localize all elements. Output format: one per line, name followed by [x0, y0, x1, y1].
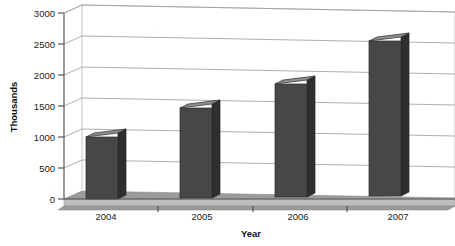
x-tick-label-2006: 2006: [287, 211, 308, 222]
x-axis-title: Year: [241, 228, 261, 239]
chart-canvas: 3000 2500 2000 1500 1000 500 0 2004 2005…: [0, 0, 455, 246]
y-axis-title: Thousands: [8, 82, 19, 133]
y-tick-label-3000: 3000: [34, 8, 55, 19]
bar-2004-front-face: [86, 137, 118, 199]
x-tick-label-2005: 2005: [191, 211, 212, 222]
y-tick-label-1000: 1000: [34, 132, 55, 143]
bar-2006-front-face: [275, 84, 307, 197]
x-tick-label-2004: 2004: [95, 211, 116, 222]
y-axis: 3000 2500 2000 1500 1000 500 0: [34, 8, 64, 205]
y-tick-label-2500: 2500: [34, 39, 55, 50]
x-tick-label-2007: 2007: [387, 211, 408, 222]
y-tick-label-1500: 1500: [34, 101, 55, 112]
bar-2006-side-face: [307, 76, 315, 197]
bar-2006[interactable]: [275, 76, 315, 197]
y-tick-label-0: 0: [50, 194, 55, 205]
y-tick-label-500: 500: [39, 163, 55, 174]
bar-2005-front-face: [180, 108, 212, 198]
bar-2005-side-face: [212, 100, 220, 198]
y-tick-label-2000: 2000: [34, 70, 55, 81]
bar-2004[interactable]: [86, 129, 126, 199]
bar-2007[interactable]: [369, 33, 409, 196]
floor-bottom-bevel: [58, 206, 455, 210]
bar-2004-side-face: [118, 129, 126, 199]
bar-2007-front-face: [369, 41, 401, 196]
bar-chart: 3000 2500 2000 1500 1000 500 0 2004 2005…: [0, 0, 455, 246]
bar-2005[interactable]: [180, 100, 220, 198]
bar-2007-side-face: [401, 33, 409, 196]
